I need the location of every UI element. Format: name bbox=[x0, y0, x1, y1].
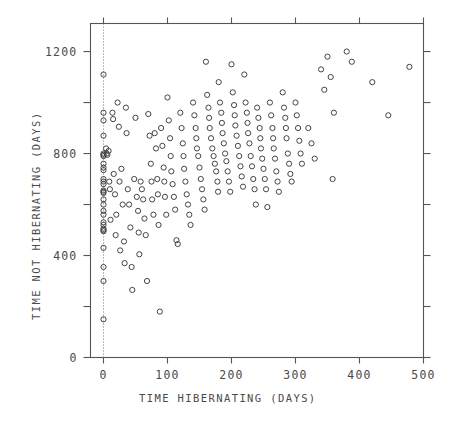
data-point bbox=[289, 179, 294, 184]
data-point bbox=[161, 165, 166, 170]
data-point bbox=[270, 125, 275, 130]
data-point bbox=[309, 141, 314, 146]
data-point bbox=[228, 189, 233, 194]
data-point bbox=[283, 125, 288, 130]
data-point bbox=[265, 204, 270, 209]
data-point bbox=[257, 125, 262, 130]
data-point bbox=[217, 100, 222, 105]
data-point bbox=[349, 59, 354, 64]
data-point bbox=[187, 212, 192, 217]
data-point bbox=[202, 207, 207, 212]
data-point bbox=[231, 102, 236, 107]
data-point bbox=[171, 194, 176, 199]
data-point bbox=[159, 125, 164, 130]
data-point bbox=[134, 194, 139, 199]
data-point bbox=[206, 105, 211, 110]
data-point bbox=[137, 252, 142, 257]
data-point bbox=[297, 138, 302, 143]
data-point bbox=[193, 125, 198, 130]
data-point bbox=[182, 166, 187, 171]
data-point bbox=[242, 72, 247, 77]
data-point bbox=[132, 176, 137, 181]
data-point bbox=[136, 230, 141, 235]
data-point bbox=[118, 248, 123, 253]
data-point bbox=[142, 216, 147, 221]
data-point bbox=[224, 159, 229, 164]
data-point bbox=[199, 187, 204, 192]
data-point bbox=[101, 72, 106, 77]
y-axis-title: TIME NOT HIBERNATING (DAYS) bbox=[30, 112, 42, 320]
data-point bbox=[256, 115, 261, 120]
data-point bbox=[114, 212, 119, 217]
data-point bbox=[194, 136, 199, 141]
data-point bbox=[192, 113, 197, 118]
data-point bbox=[101, 133, 106, 138]
data-point bbox=[267, 100, 272, 105]
data-point bbox=[298, 151, 303, 156]
data-point bbox=[121, 239, 126, 244]
data-point bbox=[208, 136, 213, 141]
data-point bbox=[247, 141, 252, 146]
data-point bbox=[238, 164, 243, 169]
data-point bbox=[258, 146, 263, 151]
data-point bbox=[155, 192, 160, 197]
data-point bbox=[146, 111, 151, 116]
x-tick-label: 400 bbox=[347, 368, 371, 382]
data-point bbox=[295, 125, 300, 130]
data-point bbox=[261, 166, 266, 171]
data-point bbox=[111, 117, 116, 122]
data-point bbox=[124, 131, 129, 136]
data-point bbox=[226, 179, 231, 184]
data-point bbox=[110, 110, 115, 115]
data-point bbox=[251, 176, 256, 181]
data-point bbox=[215, 189, 220, 194]
data-point bbox=[330, 176, 335, 181]
data-point bbox=[255, 105, 260, 110]
data-point bbox=[288, 171, 293, 176]
data-point bbox=[148, 161, 153, 166]
data-point bbox=[167, 136, 172, 141]
data-point bbox=[216, 80, 221, 85]
data-point bbox=[235, 143, 240, 148]
data-point bbox=[325, 54, 330, 59]
data-point bbox=[211, 153, 216, 158]
y-tick-label: 400 bbox=[53, 249, 77, 263]
data-point bbox=[263, 187, 268, 192]
data-point bbox=[233, 123, 238, 128]
data-point bbox=[178, 110, 183, 115]
data-point bbox=[141, 197, 146, 202]
data-point bbox=[151, 212, 156, 217]
data-point bbox=[203, 59, 208, 64]
data-point bbox=[229, 62, 234, 67]
data-point bbox=[144, 278, 149, 283]
data-point bbox=[101, 202, 106, 207]
data-point bbox=[271, 146, 276, 151]
data-point bbox=[246, 131, 251, 136]
plot-canvas: 010020030040050004008001200 bbox=[0, 0, 451, 423]
data-point bbox=[328, 74, 333, 79]
data-point bbox=[214, 169, 219, 174]
data-point bbox=[287, 161, 292, 166]
x-tick-label: 200 bbox=[219, 368, 243, 382]
data-point bbox=[299, 161, 304, 166]
data-point bbox=[331, 110, 336, 115]
data-point bbox=[370, 80, 375, 85]
data-point bbox=[181, 153, 186, 158]
data-point bbox=[274, 169, 279, 174]
data-point bbox=[212, 161, 217, 166]
data-point bbox=[133, 115, 138, 120]
data-point bbox=[129, 264, 134, 269]
data-point bbox=[237, 153, 242, 158]
y-tick-label: 0 bbox=[69, 351, 77, 365]
y-tick-label: 1200 bbox=[45, 45, 78, 59]
data-point bbox=[240, 184, 245, 189]
data-point bbox=[125, 187, 130, 192]
data-point bbox=[180, 141, 185, 146]
data-point bbox=[207, 125, 212, 130]
data-point bbox=[165, 95, 170, 100]
data-point bbox=[138, 179, 143, 184]
data-point bbox=[117, 179, 122, 184]
data-point bbox=[156, 222, 161, 227]
data-point bbox=[135, 208, 140, 213]
data-point bbox=[294, 113, 299, 118]
